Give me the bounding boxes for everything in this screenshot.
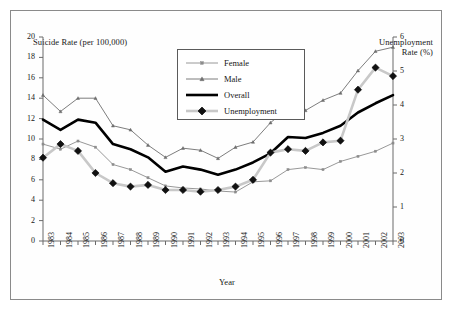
legend-item-overall[interactable]: Overall: [184, 87, 250, 103]
x-tick-label: 1997: [292, 232, 301, 248]
x-tick-label: 1999: [327, 232, 336, 248]
x-tick-label: 1998: [310, 232, 319, 248]
legend-item-male[interactable]: Male: [184, 71, 241, 87]
figure-container: Suicide Rate (per 100,000) Unemployment …: [0, 0, 454, 312]
x-tick-label: 2003: [397, 232, 406, 248]
y-tick-label-left: 14: [19, 93, 35, 102]
data-point-square: [201, 62, 204, 65]
data-point-square: [129, 169, 131, 171]
data-point-diamond: [337, 137, 344, 144]
x-tick-label: 1990: [170, 232, 179, 248]
x-tick-label: 2001: [362, 232, 371, 248]
x-tick-label: 1995: [257, 232, 266, 248]
y-tick-label-left: 2: [19, 216, 35, 225]
chart-outer-frame: Suicide Rate (per 100,000) Unemployment …: [10, 10, 442, 300]
data-point-square: [339, 160, 341, 162]
data-point-diamond: [144, 181, 151, 188]
y-tick-label-left: 16: [19, 73, 35, 82]
y-tick-label-left: 0: [19, 236, 35, 245]
x-tick-label: 1986: [100, 232, 109, 248]
data-point-square: [322, 169, 324, 171]
x-tick-label: 1992: [205, 232, 214, 248]
legend-label: Overall: [224, 90, 250, 100]
diamond-marker-line: [184, 105, 220, 117]
data-point-diamond: [284, 146, 291, 153]
series-line-female: [43, 141, 393, 192]
data-point-diamond: [214, 186, 221, 193]
data-point-diamond: [198, 107, 206, 115]
x-tick-label: 1987: [117, 232, 126, 248]
x-tick-label: 2000: [345, 232, 354, 248]
data-point-square: [112, 163, 114, 165]
x-tick-label: 1991: [187, 232, 196, 248]
x-tick-label: 1994: [240, 232, 249, 248]
y-tick-label-right: 6: [400, 32, 416, 41]
y-tick-label-left: 8: [19, 154, 35, 163]
square-marker-line: [184, 57, 220, 69]
x-tick-label: 2002: [380, 232, 389, 248]
legend-label: Unemployment: [224, 106, 277, 116]
data-point-square: [374, 150, 376, 152]
y-tick-label-left: 4: [19, 195, 35, 204]
y-tick-label-right: 3: [400, 134, 416, 143]
data-point-square: [304, 167, 306, 169]
data-point-square: [357, 155, 359, 157]
y-tick-label-right: 5: [400, 66, 416, 75]
x-tick-label: 1983: [47, 232, 56, 248]
data-point-diamond: [232, 183, 239, 190]
y-tick-label-right: 1: [400, 202, 416, 211]
x-axis-title: Year: [0, 277, 454, 287]
data-point-square: [269, 180, 271, 182]
x-tick-label: 1988: [135, 232, 144, 248]
x-tick-label: 1989: [152, 232, 161, 248]
data-point-square: [94, 146, 96, 148]
y-tick-label-right: 4: [400, 100, 416, 109]
data-point-square: [77, 140, 79, 142]
legend-item-unemployment[interactable]: Unemployment: [184, 103, 277, 119]
data-point-square: [234, 191, 236, 193]
data-point-triangle: [41, 94, 44, 97]
x-tick-label: 1993: [222, 232, 231, 248]
x-tick-label: 1996: [275, 232, 284, 248]
data-point-square: [59, 148, 61, 150]
chart-legend: FemaleMaleOverallUnemployment: [177, 49, 305, 120]
legend-label: Male: [224, 74, 241, 84]
data-point-square: [392, 142, 394, 144]
data-point-diamond: [127, 183, 134, 190]
x-tick-label: 1984: [65, 232, 74, 248]
y-tick-label-left: 18: [19, 52, 35, 61]
y-tick-label-left: 12: [19, 114, 35, 123]
legend-item-female[interactable]: Female: [184, 55, 249, 71]
data-point-square: [287, 169, 289, 171]
x-tick-label: 1985: [82, 232, 91, 248]
legend-label: Female: [224, 58, 249, 68]
y-tick-label-right: 2: [400, 168, 416, 177]
y-tick-label-left: 20: [19, 32, 35, 41]
y-tick-label-left: 6: [19, 175, 35, 184]
data-point-square: [42, 143, 44, 145]
data-point-diamond: [162, 186, 169, 193]
y-tick-label-left: 10: [19, 134, 35, 143]
data-point-square: [147, 177, 149, 179]
triangle-marker-line: [184, 73, 220, 85]
thick-solid-line: [184, 89, 220, 101]
